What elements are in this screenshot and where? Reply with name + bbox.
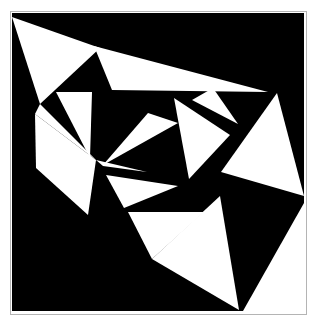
artwork-canvas: Abstract Black and White Geometric Compo… — [0, 0, 318, 328]
geometric-artwork — [0, 0, 318, 328]
